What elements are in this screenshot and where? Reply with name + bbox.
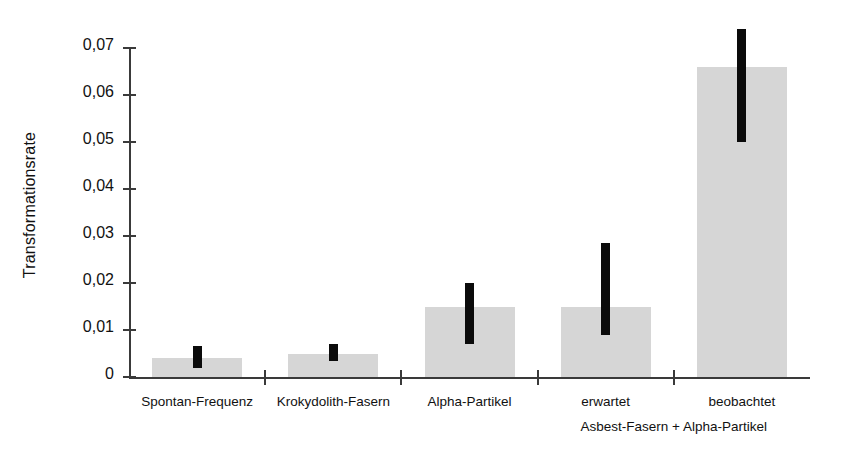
y-axis-tick-label: 0 <box>105 365 114 383</box>
y-axis-tick-label: 0,07 <box>83 36 114 54</box>
y-axis-label-text: Transformationsrate <box>21 85 39 325</box>
y-axis-tick: 0,04 <box>123 188 136 190</box>
y-axis-tick-label: 0,02 <box>83 271 114 289</box>
x-axis-category-label: beobachtet <box>708 394 775 409</box>
chart-figure: Transformationsrate 00,010,020,030,040,0… <box>0 0 853 449</box>
y-axis-tick: 0,03 <box>123 235 136 237</box>
error-bar <box>737 29 746 142</box>
error-bar <box>193 346 202 367</box>
y-axis-tick: 0,02 <box>123 282 136 284</box>
error-bar <box>465 283 474 344</box>
y-axis-tick: 0 <box>123 376 136 378</box>
x-axis-group-label: Asbest-Fasern + Alpha-Partikel <box>581 419 767 434</box>
x-axis-category-label: Spontan-Frequenz <box>141 394 253 409</box>
y-axis-tick-label: 0,04 <box>83 177 114 195</box>
x-axis-tick <box>537 370 539 385</box>
y-axis-tick-label: 0,06 <box>83 83 114 101</box>
y-axis-tick: 0,06 <box>123 94 136 96</box>
x-axis-category-label: Krokydolith-Fasern <box>277 394 390 409</box>
y-axis-tick-label: 0,01 <box>83 318 114 336</box>
x-axis-tick <box>264 370 266 385</box>
y-axis-tick: 0,07 <box>123 47 136 49</box>
x-axis-category-label: Alpha-Partikel <box>427 394 511 409</box>
x-axis-tick <box>400 370 402 385</box>
error-bar <box>601 243 610 335</box>
y-axis-tick-label: 0,03 <box>83 224 114 242</box>
plot-area: 00,010,020,030,040,050,060,07 <box>129 48 810 377</box>
x-axis-tick <box>673 370 675 385</box>
y-axis-tick: 0,05 <box>123 141 136 143</box>
x-axis-line <box>129 377 810 379</box>
y-axis-label: Transformationsrate <box>0 0 60 449</box>
error-bar <box>329 344 338 360</box>
y-axis-tick-label: 0,05 <box>83 130 114 148</box>
y-axis-line <box>129 48 131 377</box>
x-axis-category-label: erwartet <box>581 394 630 409</box>
y-axis-tick: 0,01 <box>123 329 136 331</box>
